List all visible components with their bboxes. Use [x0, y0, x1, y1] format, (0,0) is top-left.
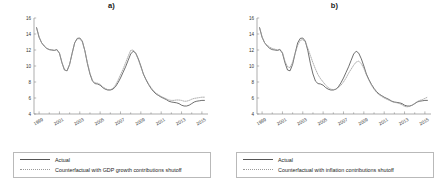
panel-a-svg: 4681012141619992001200320052007200920112… [18, 16, 211, 132]
svg-text:2011: 2011 [155, 117, 166, 126]
svg-text:2005: 2005 [317, 117, 329, 127]
svg-text:16: 16 [249, 16, 255, 21]
panel-b-title: b) [223, 1, 446, 10]
svg-text:1999: 1999 [256, 117, 268, 127]
svg-text:2007: 2007 [337, 117, 349, 127]
legend-entry-counterfactual: Counterfactual with GDP growth contribut… [17, 165, 207, 175]
chart-panel-a: a) 4681012141619992001200320052007200920… [0, 0, 223, 184]
svg-text:2009: 2009 [134, 117, 146, 127]
legend-swatch-solid-line-icon [20, 159, 50, 161]
legend-label-actual: Actual [55, 157, 70, 163]
svg-text:2009: 2009 [357, 117, 369, 127]
svg-text:6: 6 [251, 96, 254, 101]
svg-text:4: 4 [28, 112, 31, 117]
svg-text:16: 16 [26, 16, 32, 21]
legend-swatch-solid-line-icon [243, 159, 273, 161]
legend-entry-actual: Actual [17, 155, 207, 165]
legend-entry-actual: Actual [240, 155, 430, 165]
svg-text:2001: 2001 [53, 117, 65, 127]
svg-text:10: 10 [26, 64, 32, 69]
svg-text:2015: 2015 [418, 117, 430, 127]
svg-text:12: 12 [249, 48, 255, 53]
legend-label-counterfactual: Counterfactual with inflation contributi… [278, 167, 394, 173]
svg-text:6: 6 [28, 96, 31, 101]
legend-swatch-dotted-line-icon [20, 169, 50, 171]
svg-text:8: 8 [28, 80, 31, 85]
svg-text:12: 12 [26, 48, 32, 53]
panel-a-plot-area: 4681012141619992001200320052007200920112… [18, 16, 211, 132]
legend-entry-counterfactual: Counterfactual with inflation contributi… [240, 165, 430, 175]
svg-text:2013: 2013 [175, 117, 187, 127]
chart-panel-b: b) 4681012141619992001200320052007200920… [223, 0, 446, 184]
panel-a-title: a) [0, 1, 223, 10]
svg-text:14: 14 [249, 32, 255, 37]
svg-text:2007: 2007 [114, 117, 126, 127]
svg-text:2003: 2003 [296, 117, 308, 127]
svg-text:1999: 1999 [33, 117, 45, 127]
svg-text:2015: 2015 [195, 117, 207, 127]
panel-a-legend: Actual Counterfactual with GDP growth co… [13, 152, 211, 178]
svg-text:4: 4 [251, 112, 254, 117]
svg-text:10: 10 [249, 64, 255, 69]
svg-text:2013: 2013 [398, 117, 410, 127]
legend-label-counterfactual: Counterfactual with GDP growth contribut… [55, 167, 182, 173]
svg-text:14: 14 [26, 32, 32, 37]
svg-text:2001: 2001 [276, 117, 288, 127]
svg-text:8: 8 [251, 80, 254, 85]
svg-text:2011: 2011 [378, 117, 389, 126]
svg-text:2005: 2005 [94, 117, 106, 127]
panel-b-plot-area: 4681012141619992001200320052007200920112… [241, 16, 434, 132]
svg-text:2003: 2003 [73, 117, 85, 127]
panel-b-legend: Actual Counterfactual with inflation con… [236, 152, 434, 178]
legend-swatch-dotted-line-icon [243, 169, 273, 171]
panel-b-svg: 4681012141619992001200320052007200920112… [241, 16, 434, 132]
legend-label-actual: Actual [278, 157, 293, 163]
figure-panel-pair: a) 4681012141619992001200320052007200920… [0, 0, 446, 184]
